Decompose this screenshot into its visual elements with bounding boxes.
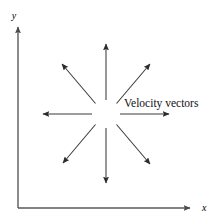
velocity-vectors-label: Velocity vectors	[124, 97, 199, 110]
vector-down-left	[63, 125, 96, 164]
vector-down-right	[117, 125, 151, 165]
vector-up-left	[62, 64, 96, 104]
vector-field-diagram: y x Velocity vectors	[0, 0, 213, 223]
velocity-vector-figure: y x Velocity vectors	[0, 0, 213, 223]
x-axis-label: x	[201, 202, 207, 213]
y-axis-label: y	[11, 10, 17, 21]
velocity-vectors-group	[43, 44, 169, 183]
axes-group	[18, 27, 190, 208]
